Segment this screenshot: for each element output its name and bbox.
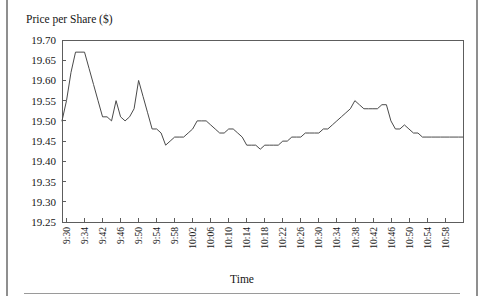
x-axis-title: Time	[0, 272, 484, 286]
y-tick-label: 19.40	[31, 155, 56, 167]
x-tick-label: 9:42	[98, 227, 108, 244]
x-tick-label: 10:26	[296, 227, 306, 249]
y-tick-label: 19.30	[31, 196, 56, 208]
price-series-line	[62, 52, 463, 149]
x-tick-label: 10:06	[206, 227, 216, 249]
x-tick-label: 10:14	[242, 227, 252, 249]
y-axis-tick-group: 19.7019.6519.6019.5519.5019.4519.4019.35…	[31, 34, 66, 228]
x-tick-label: 9:34	[80, 227, 90, 244]
y-tick-label: 19.65	[31, 54, 56, 66]
page-canvas: Price per Share ($) 19.7019.6519.6019.55…	[0, 0, 484, 303]
x-tick-label: 10:18	[260, 227, 270, 249]
axis-frame	[62, 40, 463, 222]
x-tick-label: 10:34	[332, 227, 342, 249]
x-tick-label: 10:22	[278, 227, 288, 249]
x-tick-label: 10:38	[351, 227, 361, 249]
x-tick-label: 10:02	[188, 227, 198, 249]
y-tick-label: 19.45	[31, 135, 56, 147]
x-tick-label: 9:58	[170, 227, 180, 244]
y-tick-label: 19.25	[31, 216, 56, 228]
x-tick-label: 9:46	[116, 227, 126, 244]
y-tick-label: 19.35	[31, 176, 56, 188]
x-tick-label: 10:10	[224, 227, 234, 249]
x-tick-label: 10:58	[441, 227, 451, 249]
x-tick-label: 9:30	[62, 227, 72, 244]
x-tick-label: 9:50	[134, 227, 144, 244]
y-tick-label: 19.70	[31, 34, 56, 46]
x-tick-label: 9:54	[152, 227, 162, 244]
x-tick-label: 10:30	[314, 227, 324, 249]
line-chart-figure: Price per Share ($) 19.7019.6519.6019.55…	[0, 0, 484, 303]
plot-area: 19.7019.6519.6019.5519.5019.4519.4019.35…	[0, 0, 484, 303]
y-tick-label: 19.50	[31, 115, 56, 127]
y-tick-label: 19.55	[31, 95, 56, 107]
x-tick-label: 10:50	[405, 227, 415, 249]
y-tick-label: 19.60	[31, 74, 56, 86]
x-axis-tick-group: 9:309:349:429:469:509:549:5810:0210:0610…	[62, 218, 451, 249]
x-tick-label: 10:46	[387, 227, 397, 249]
x-tick-label: 10:42	[369, 227, 379, 249]
x-tick-label: 10:54	[423, 227, 433, 249]
